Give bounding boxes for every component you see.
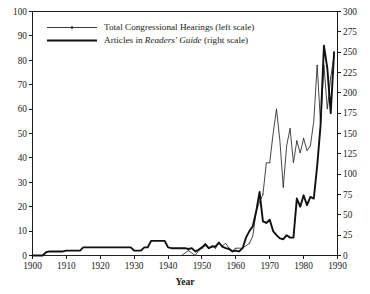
x-axis-tick-label: 1900 [23, 261, 42, 271]
legend-label-congressional-hearings: Total Congressional Hearings (left scale… [104, 22, 254, 32]
series-marker [107, 255, 108, 256]
series-marker [262, 194, 263, 195]
series-marker [46, 255, 47, 256]
x-axis-tick-label: 1920 [91, 261, 110, 271]
x-axis-tick-label: 1970 [260, 261, 279, 271]
legend-label-readers-guide: Articles in Readers' Guide (right scale) [104, 35, 248, 45]
chart-figure: 0102030405060708090100 02550751001251501… [0, 0, 370, 294]
y-axis-left-tick-label: 70 [18, 80, 28, 90]
x-axis-tick-label: 1990 [328, 261, 347, 271]
series-marker [134, 255, 135, 256]
series-marker [59, 255, 60, 256]
y-axis-left-tick-label: 80 [18, 56, 28, 66]
series-marker [168, 255, 169, 256]
series-marker [174, 255, 175, 256]
y-axis-right-tick-label: 75 [343, 190, 353, 200]
series-marker [120, 255, 121, 256]
y-axis-right-tick-label: 100 [343, 169, 357, 179]
series-marker [249, 243, 250, 244]
series-marker [100, 255, 101, 256]
series-marker [79, 255, 80, 256]
series-marker [147, 255, 148, 256]
series-marker [66, 255, 67, 256]
series-marker [140, 255, 141, 256]
y-axis-right-tick-label: 200 [343, 88, 357, 98]
series-marker [195, 255, 196, 256]
y-axis-left-tick-label: 90 [18, 31, 28, 41]
series-marker [127, 255, 128, 256]
series-marker [86, 255, 87, 256]
series-marker [317, 65, 318, 66]
y-axis-right-tick-label: 250 [343, 47, 357, 57]
series-marker [283, 187, 284, 188]
y-axis-left-tick-label: 60 [18, 104, 28, 114]
y-axis-left-tick-label: 10 [18, 226, 28, 236]
y-axis-left-tick-label: 40 [18, 153, 28, 163]
y-axis-left-tick-label: 50 [18, 129, 28, 139]
x-axis-tick-label: 1960 [227, 261, 246, 271]
series-marker [188, 250, 189, 251]
y-axis-right-tick-label: 275 [343, 27, 357, 37]
line-chart: 0102030405060708090100 02550751001251501… [0, 0, 370, 294]
y-axis-left-tick-label: 30 [18, 178, 28, 188]
y-axis-right-tick-label: 50 [343, 210, 353, 220]
x-axis-tick-label: 1980 [294, 261, 313, 271]
x-axis-tick-label: 1910 [57, 261, 76, 271]
y-axis-right-tick-label: 175 [343, 108, 357, 118]
x-axis-tick-label: 1940 [159, 261, 178, 271]
x-axis-tick-label: 1950 [193, 261, 212, 271]
series-marker [310, 145, 311, 146]
x-axis-tick-label: 1930 [125, 261, 144, 271]
series-marker [181, 255, 182, 256]
series-marker [154, 255, 155, 256]
series-marker [161, 255, 162, 256]
y-axis-right-tick-label: 150 [343, 129, 357, 139]
y-axis-left-tick-label: 20 [18, 202, 28, 212]
y-axis-right-tick-label: 225 [343, 68, 357, 78]
y-axis-right-tick-label: 300 [343, 7, 357, 17]
x-axis-title: Year [175, 276, 195, 287]
series-marker [52, 255, 53, 256]
series-marker [215, 248, 216, 249]
series-marker [73, 255, 74, 256]
series-marker [330, 77, 331, 78]
series-marker [303, 138, 304, 139]
y-axis-right-tick-label: 25 [343, 230, 353, 240]
legend-marker-dot [71, 26, 74, 29]
series-marker [93, 255, 94, 256]
series-marker [276, 109, 277, 110]
series-marker [113, 255, 114, 256]
series-marker [235, 248, 236, 249]
y-axis-right-tick-label: 125 [343, 149, 357, 159]
series-marker [269, 162, 270, 163]
series-marker [290, 128, 291, 129]
y-axis-left-tick-label: 100 [13, 7, 27, 17]
y-axis-right-tick-label: 0 [343, 251, 348, 261]
y-axis-left-tick-label: 0 [22, 251, 27, 261]
series-marker [296, 140, 297, 141]
